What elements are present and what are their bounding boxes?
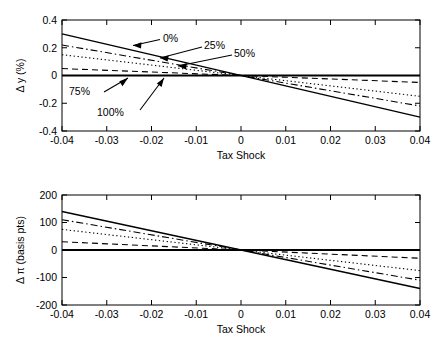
bottom-yaxis-title: Δ π (basis pts): [14, 216, 26, 284]
bottom-xtick-label-3: -0.01: [184, 308, 208, 320]
bottom-xtick-label-4: 0: [238, 308, 244, 320]
bottom-xtick-label-0: -0.04: [50, 308, 74, 320]
top-xtick-label-6: 0.02: [320, 134, 341, 146]
top-annotation-label-100pct: 100%: [97, 106, 124, 118]
top-xtick-label-1: -0.03: [95, 134, 119, 146]
bottom-series-group: [62, 212, 420, 289]
bottom-xtick-label-6: 0.02: [320, 308, 341, 320]
bottom-xaxis-title: Tax Shock: [217, 323, 266, 335]
bottom-ytick-label-1: 100: [39, 216, 57, 228]
top-xtick-label-7: 0.03: [365, 134, 386, 146]
bottom-xtick-label-7: 0.03: [365, 308, 386, 320]
figure-container: 0.4 0.2 0 -0.2 -0.4 -0.04 -0.03 -0.02 -0…: [0, 0, 439, 347]
top-arrowhead-75pct: [119, 78, 128, 86]
top-panel: 0.4 0.2 0 -0.2 -0.4 -0.04 -0.03 -0.02 -0…: [14, 14, 430, 161]
top-annotation-label-75pct: 75%: [69, 85, 90, 97]
bottom-xtick-label-1: -0.03: [95, 308, 119, 320]
top-xtick-label-0: -0.04: [50, 134, 74, 146]
top-xtick-label-5: 0.01: [276, 134, 297, 146]
top-xtick-label-8: 0.04: [410, 134, 431, 146]
top-xtick-label-3: -0.01: [184, 134, 208, 146]
top-xtick-label-2: -0.02: [140, 134, 164, 146]
bottom-ytick-label-2: 0: [51, 244, 57, 256]
top-ytick-label-0: 0.4: [42, 14, 57, 26]
top-annotation-label-50pct: 50%: [234, 47, 255, 59]
bottom-ytick-label-3: -100: [36, 271, 57, 283]
top-ytick-label-2: 0: [51, 69, 57, 81]
top-ytick-label-1: 0.2: [42, 42, 57, 54]
two-panel-line-chart: 0.4 0.2 0 -0.2 -0.4 -0.04 -0.03 -0.02 -0…: [0, 0, 439, 347]
top-annotation-label-0pct: 0%: [163, 32, 178, 44]
top-annotation-75pct: 75%: [69, 78, 128, 97]
top-xtick-label-4: 0: [238, 134, 244, 146]
bottom-ytick-label-0: 200: [39, 189, 57, 201]
bottom-xtick-label-5: 0.01: [276, 308, 297, 320]
bottom-xtick-label-2: -0.02: [140, 308, 164, 320]
top-arrowhead-0pct: [133, 42, 142, 48]
top-ytick-label-3: -0.2: [39, 97, 57, 109]
bottom-panel: 200 100 0 -100 -200 -0.04 -0.03 -0.02 -0…: [14, 189, 430, 335]
top-annotation-100pct: 100%: [97, 78, 164, 118]
top-yaxis-title: Δ y (%): [14, 59, 26, 93]
top-annotation-0pct: 0%: [133, 32, 178, 49]
bottom-xtick-label-8: 0.04: [410, 308, 431, 320]
top-annotation-label-25pct: 25%: [204, 39, 225, 51]
top-xaxis-title: Tax Shock: [217, 149, 266, 161]
